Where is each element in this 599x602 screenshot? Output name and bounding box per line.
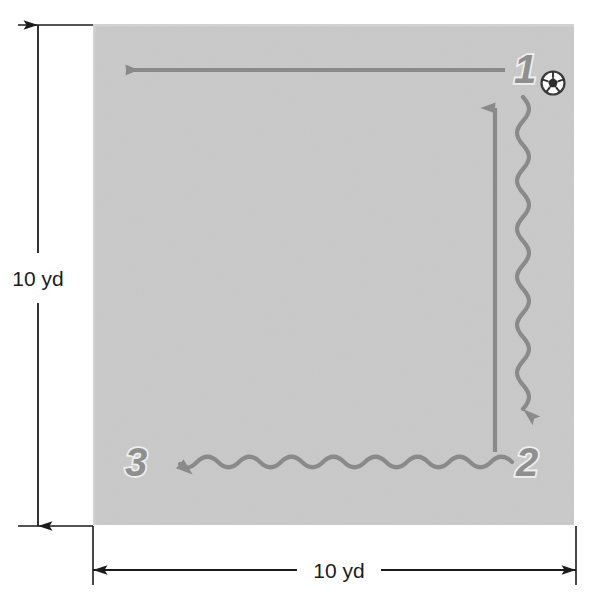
step-label-1-text: 1	[514, 47, 536, 91]
soccer-drill-diagram: 1 1 2 2 3 3 10 yd	[0, 0, 599, 602]
step-label-2-text: 2	[515, 440, 538, 484]
soccer-ball-icon	[542, 72, 565, 95]
diagram-canvas: 1 1 2 2 3 3 10 yd	[0, 0, 599, 602]
step-label-3-text: 3	[125, 440, 147, 484]
playing-field	[93, 24, 574, 525]
dimension-label-horizontal: 10 yd	[313, 559, 364, 582]
step-label-3: 3 3	[125, 440, 147, 484]
step-label-2: 2 2	[515, 440, 538, 484]
dimension-label-vertical: 10 yd	[12, 267, 63, 290]
step-label-1: 1 1	[514, 47, 536, 91]
